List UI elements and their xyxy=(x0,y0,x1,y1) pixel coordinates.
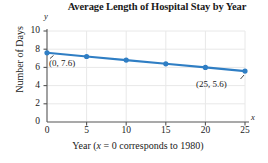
chart-figure: Average Length of Hospital Stay by Year … xyxy=(0,0,268,163)
data-point xyxy=(44,50,49,55)
x-tick-label-10: 10 xyxy=(116,125,136,135)
x-tick-label-25: 25 xyxy=(235,125,255,135)
leader-last-point xyxy=(241,75,245,79)
y-tick-label-8: 8 xyxy=(22,44,40,54)
x-caption-suffix: = 0 corresponds to 1980) xyxy=(101,140,204,151)
data-point xyxy=(84,54,89,59)
x-tick-label-5: 5 xyxy=(77,125,97,135)
x-axis-caption: Year (x = 0 corresponds to 1980) xyxy=(30,140,246,151)
plot-area xyxy=(0,0,268,163)
x-tick-label-0: 0 xyxy=(37,125,57,135)
annotation-last-point: (25, 5.6) xyxy=(196,79,227,89)
annotation-first-point: (0, 7.6) xyxy=(49,58,75,68)
y-tick-label-4: 4 xyxy=(22,80,40,90)
data-line xyxy=(47,53,245,71)
data-point xyxy=(124,58,129,63)
y-tick-label-6: 6 xyxy=(22,62,40,72)
x-caption-prefix: Year ( xyxy=(72,140,96,151)
y-tick-label-10: 10 xyxy=(22,25,40,35)
gridlines-vertical xyxy=(87,31,245,122)
x-tick-label-20: 20 xyxy=(195,125,215,135)
data-point xyxy=(163,61,168,66)
data-point xyxy=(203,65,208,70)
axis-lines xyxy=(47,29,249,122)
x-tick-label-15: 15 xyxy=(156,125,176,135)
data-point xyxy=(242,69,247,74)
y-tick-label-2: 2 xyxy=(22,98,40,108)
